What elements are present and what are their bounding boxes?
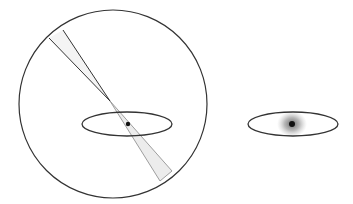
core-dot-left	[126, 122, 130, 126]
beam-upper-wedge	[49, 30, 110, 101]
right-panel	[248, 111, 338, 137]
core-dot-right	[289, 121, 295, 127]
beam-line-upper-a	[49, 38, 110, 101]
left-panel	[19, 10, 207, 198]
beam-line-upper-b	[63, 30, 110, 101]
diagram-canvas	[0, 0, 353, 204]
